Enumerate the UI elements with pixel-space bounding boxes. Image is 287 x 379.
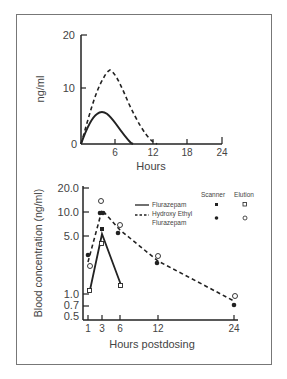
bottom-xtick-24: 24: [228, 323, 240, 334]
top-xtick-6: 6: [112, 147, 118, 158]
bottom-xtick-6: 6: [117, 323, 123, 334]
legend-open-circle-icon: [243, 216, 247, 220]
bottom-chart: 20.0 10.0 5.0 1.0 0.7 0.5 1 3 6 12 24 Ho…: [32, 182, 254, 350]
marker-fz-elution: [100, 242, 104, 246]
legend-item-hydroxy-1: Hydroxy Ethyl: [152, 210, 193, 218]
top-xtick-24: 24: [216, 147, 228, 158]
marker-hef-elution: [233, 294, 238, 299]
marker-hef-scanner: [101, 211, 106, 216]
top-xtick-12: 12: [147, 147, 159, 158]
bottom-flurazepam-line: [90, 234, 121, 290]
figure-canvas: 20 10 0 6 12 18 24 Hours ng/ml 20.0 10.0…: [0, 0, 287, 379]
top-chart: 20 10 0 6 12 18 24 Hours ng/ml: [34, 29, 228, 172]
marker-hef-scanner: [155, 261, 160, 266]
legend-item-flurazepam: Flurazepam: [152, 201, 186, 209]
legend-col-scanner: Scanner: [201, 191, 226, 198]
legend-filled-square-icon: [215, 203, 218, 206]
top-ytick-0: 0: [71, 138, 77, 150]
marker-hef-scanner: [232, 303, 237, 308]
top-xtick-18: 18: [181, 147, 193, 158]
legend-open-square-icon: [243, 203, 247, 207]
bottom-ytick-20: 20.0: [58, 182, 79, 194]
top-ytick-20: 20: [63, 29, 75, 41]
bottom-xtick-12: 12: [152, 323, 164, 334]
marker-hef-elution: [88, 264, 93, 269]
top-hydroxy-curve: [81, 70, 157, 144]
marker-hef-elution: [156, 254, 161, 259]
marker-hef-elution: [118, 223, 123, 228]
marker-hef-scanner: [86, 253, 91, 258]
top-y-label: ng/ml: [34, 76, 46, 103]
bottom-xtick-3: 3: [99, 323, 105, 334]
bottom-ytick-5: 5.0: [64, 230, 79, 242]
legend-col-elution: Elution: [234, 191, 254, 198]
bottom-y-label: Blood concentration (ng/ml): [32, 189, 44, 317]
legend: Scanner Elution Flurazepam Hydroxy Ethyl…: [135, 191, 254, 227]
marker-hef-elution: [99, 199, 104, 204]
bottom-x-label: Hours postdosing: [109, 338, 195, 350]
marker-fz-elution: [88, 289, 92, 293]
marker-fz-elution: [119, 284, 123, 288]
bottom-xtick-1: 1: [85, 323, 91, 334]
top-ytick-10: 10: [63, 82, 75, 94]
marker-fz-scanner: [100, 227, 104, 231]
legend-filled-circle-icon: [215, 216, 219, 220]
bottom-ytick-10: 10.0: [58, 206, 79, 218]
top-x-label: Hours: [136, 160, 166, 172]
marker-hef-scanner: [116, 231, 121, 236]
legend-item-hydroxy-2: Flurazepam: [152, 219, 186, 227]
bottom-ytick-0.5: 0.5: [64, 310, 79, 322]
